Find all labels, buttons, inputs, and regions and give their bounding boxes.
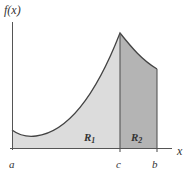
x-axis-label: x [176,144,183,158]
y-axis-label: f(x) [4,3,21,17]
tick-label-a: a [9,158,15,170]
integral-diagram: f(x) x a c b R1 R2 [0,0,187,175]
region-r2 [120,33,157,148]
region-r1 [12,33,120,148]
tick-label-c: c [116,158,121,170]
tick-label-b: b [152,158,158,170]
